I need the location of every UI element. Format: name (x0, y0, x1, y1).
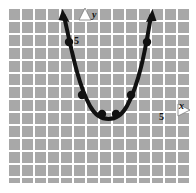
data-point (78, 91, 86, 99)
parabola-curve (64, 16, 151, 119)
y-axis-tick-label-5: 5 (74, 36, 79, 46)
y-axis-arrow-icon (79, 8, 91, 20)
right-branch-arrow-icon (146, 9, 157, 22)
data-point (98, 110, 106, 118)
graph-figure: y x 5 5 (0, 0, 196, 193)
data-point (112, 110, 120, 118)
y-axis-label: y (92, 10, 96, 20)
data-point (65, 38, 73, 46)
x-axis-tick-label-5: 5 (159, 112, 164, 122)
data-point (127, 91, 135, 99)
data-point (143, 38, 151, 46)
x-axis-label: x (179, 101, 184, 111)
left-branch-arrow-icon (59, 9, 70, 22)
plot-svg (0, 0, 196, 193)
